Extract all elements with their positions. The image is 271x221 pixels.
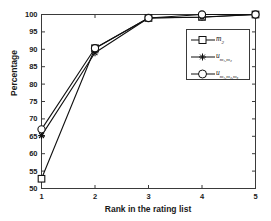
marker-circle xyxy=(91,45,98,52)
marker-square xyxy=(38,175,45,182)
legend-marker-square-icon xyxy=(190,33,216,47)
legend-item-u-m1-m2[interactable]: um₁,m₂ xyxy=(187,48,251,65)
legend-label-m2: m2 xyxy=(216,35,224,45)
marker-circle xyxy=(198,11,205,18)
legend-item-m2[interactable]: m2 xyxy=(187,31,251,48)
marker-circle xyxy=(145,14,152,21)
legend: m2 um₁,m₂ xyxy=(186,29,250,80)
legend-item-u-m1-m2-m3[interactable]: um₁,m₂,m₃ xyxy=(187,65,251,82)
marker-circle xyxy=(252,11,259,18)
legend-marker-star-icon xyxy=(190,50,216,64)
legend-label-u-m1-m2: um₁,m₂ xyxy=(216,52,232,62)
legend-label-u-m1-m2-m3: um₁,m₂,m₃ xyxy=(216,69,238,79)
chart-figure: Percentage Rank in the rating list 50556… xyxy=(0,0,271,221)
legend-marker-circle-icon xyxy=(190,67,216,81)
marker-circle xyxy=(38,126,45,133)
